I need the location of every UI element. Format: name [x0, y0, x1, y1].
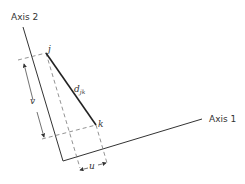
- distance-jk-line: [46, 53, 96, 125]
- projection-j-horizontal: [18, 53, 46, 60]
- projection-k-vertical: [96, 125, 107, 163]
- v-dimension-arrow: [24, 64, 33, 100]
- distance-label-subscript: jk: [78, 88, 86, 96]
- axis-2-line: [23, 27, 63, 161]
- u-label: u: [89, 161, 95, 171]
- point-k-label: k: [98, 119, 103, 129]
- projection-k-horizontal: [42, 125, 96, 139]
- distance-diagram: Axis 2 Axis 1 j k djk v u: [0, 0, 245, 184]
- point-j-label: j: [46, 44, 51, 54]
- axis-2-label: Axis 2: [11, 12, 38, 22]
- axis-1-line: [63, 119, 202, 161]
- u-dimension-arrow-right: [98, 163, 106, 165]
- v-label: v: [30, 96, 35, 106]
- v-dimension-arrow-lower: [37, 112, 44, 137]
- axis-1-label: Axis 1: [209, 114, 236, 124]
- projection-j-vertical: [46, 53, 80, 168]
- u-dimension-arrow-left: [80, 168, 88, 170]
- distance-label: djk: [74, 84, 86, 96]
